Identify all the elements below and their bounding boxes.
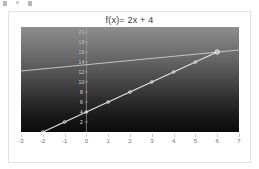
y-tick-label: 18 <box>79 39 85 45</box>
y-tick-label: 16 <box>79 49 85 55</box>
chart-figure: f(x)= 2x + 4 2468101214161820 -3-2-10123… <box>8 11 251 163</box>
x-axis-tick <box>174 134 175 137</box>
y-tick-label: 4 <box>80 109 83 115</box>
y-tick-label: 20 <box>79 29 85 35</box>
x-tick-label: 6 <box>216 138 219 144</box>
strip-mark-1 <box>3 1 7 6</box>
y-tick-label: 14 <box>79 59 85 65</box>
cropped-toolbar-strip <box>0 0 60 9</box>
x-tick-label: 5 <box>194 138 197 144</box>
x-axis-tick <box>21 134 22 137</box>
x-axis-tick <box>217 134 218 137</box>
x-axis-tick <box>43 134 44 137</box>
y-tick-label: 12 <box>79 69 85 75</box>
strip-mark-3 <box>28 1 32 6</box>
strip-mark-2 <box>16 1 19 4</box>
y-tick-label: 8 <box>80 89 83 95</box>
x-tick-label: 1 <box>107 138 110 144</box>
y-tick-label: 10 <box>79 79 85 85</box>
x-axis-tick-labels: -3-2-101234567 <box>21 134 239 146</box>
series-line-1 <box>21 50 239 71</box>
x-axis-tick <box>152 134 153 137</box>
plot-area: 2468101214161820 <box>21 27 239 132</box>
x-tick-label: -2 <box>40 138 45 144</box>
plot-svg <box>21 27 239 132</box>
x-tick-label: 3 <box>150 138 153 144</box>
x-tick-label: 2 <box>128 138 131 144</box>
x-tick-label: 4 <box>172 138 175 144</box>
x-axis-tick <box>239 134 240 137</box>
x-tick-label: 0 <box>85 138 88 144</box>
x-tick-label: -3 <box>18 138 23 144</box>
y-tick-label: 2 <box>80 119 83 125</box>
x-axis-tick <box>195 134 196 137</box>
x-axis-tick <box>65 134 66 137</box>
x-axis-tick <box>108 134 109 137</box>
series-line-0 <box>43 52 217 132</box>
chart-title: f(x)= 2x + 4 <box>9 15 250 25</box>
x-axis-tick <box>130 134 131 137</box>
x-tick-label: -1 <box>62 138 67 144</box>
y-tick-label: 6 <box>80 99 83 105</box>
x-axis-tick <box>86 134 87 137</box>
x-tick-label: 7 <box>237 138 240 144</box>
